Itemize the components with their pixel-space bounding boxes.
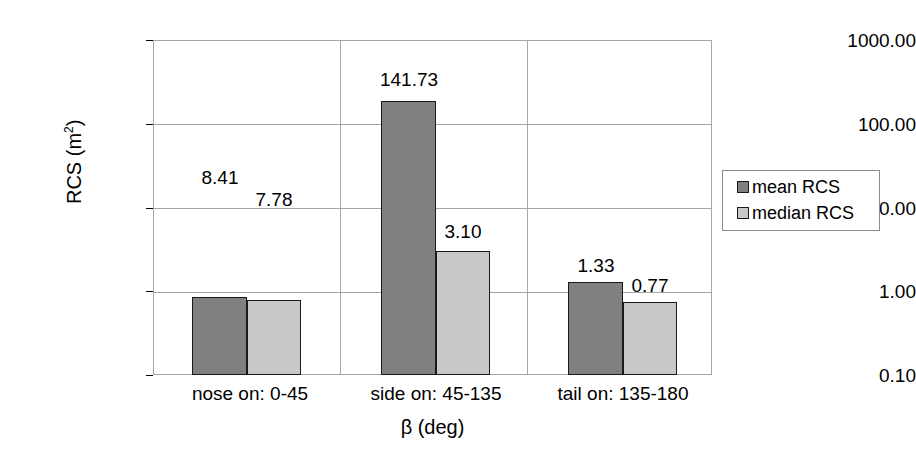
bar-mean-nose-on bbox=[192, 297, 247, 375]
legend-item-mean-rcs: mean RCS bbox=[737, 177, 840, 197]
rcs-bar-chart: 1000.00 100.00 10.00 1.00 0.10 RCS (m2) … bbox=[0, 0, 916, 459]
x-category-label-tail-on: tail on: 135-180 bbox=[533, 384, 713, 404]
y-tick-mark-1 bbox=[146, 291, 153, 292]
x-category-label-nose-on: nose on: 0-45 bbox=[160, 384, 340, 404]
y-tick-mark-100 bbox=[146, 124, 153, 125]
legend: mean RCS median RCS bbox=[722, 170, 880, 231]
legend-swatch-median-icon bbox=[737, 207, 749, 219]
y-tick-label-0p1: 0.10 bbox=[776, 366, 916, 385]
value-label-median-tail-on: 0.77 bbox=[585, 276, 715, 295]
bar-mean-tail-on bbox=[568, 282, 623, 375]
legend-label-mean-rcs: mean RCS bbox=[752, 178, 840, 196]
y-axis-title-base: RCS (m bbox=[63, 133, 85, 204]
value-label-mean-tail-on: 1.33 bbox=[531, 256, 661, 275]
category-divider-2 bbox=[527, 41, 528, 374]
value-label-median-side-on: 3.10 bbox=[398, 222, 528, 241]
value-label-median-nose-on: 7.78 bbox=[209, 190, 339, 209]
legend-item-median-rcs: median RCS bbox=[737, 203, 854, 223]
category-divider-1 bbox=[340, 41, 341, 374]
bar-median-side-on bbox=[436, 251, 490, 375]
y-axis-title-exponent: 2 bbox=[62, 126, 76, 133]
value-label-mean-nose-on: 8.41 bbox=[155, 168, 285, 187]
y-axis-title-close: ) bbox=[63, 120, 85, 127]
y-tick-label-1: 1.00 bbox=[776, 282, 916, 301]
y-axis-title: RCS (m2) bbox=[62, 82, 86, 242]
y-tick-mark-10 bbox=[146, 208, 153, 209]
y-tick-mark-1000 bbox=[146, 40, 153, 41]
x-category-label-side-on: side on: 45-135 bbox=[346, 384, 526, 404]
bar-median-nose-on bbox=[247, 300, 301, 375]
y-tick-label-1000: 1000.00 bbox=[776, 31, 916, 50]
x-axis-title: β (deg) bbox=[153, 416, 712, 439]
value-label-mean-side-on: 141.73 bbox=[344, 70, 474, 89]
bar-median-tail-on bbox=[623, 302, 677, 375]
legend-label-median-rcs: median RCS bbox=[752, 204, 854, 222]
y-tick-label-100: 100.00 bbox=[776, 115, 916, 134]
y-tick-mark-0p1 bbox=[146, 375, 153, 376]
legend-swatch-mean-icon bbox=[737, 181, 749, 193]
